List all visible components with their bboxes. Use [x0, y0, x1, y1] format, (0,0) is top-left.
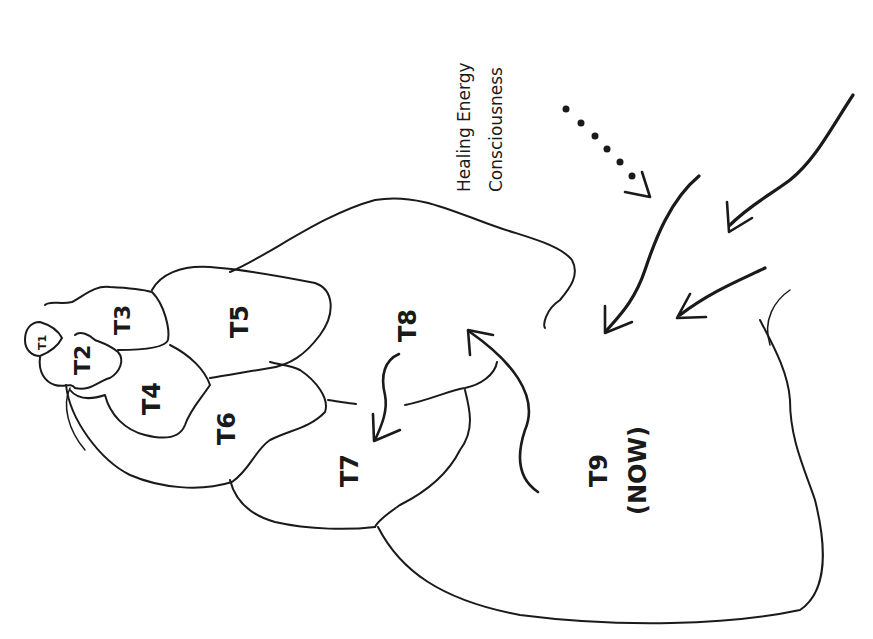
- label-t6: T6: [213, 412, 241, 445]
- region-t9-inner-edge: [768, 290, 790, 345]
- label-t5: T5: [226, 305, 254, 338]
- label-t4: T4: [138, 382, 166, 415]
- incoming-arrow-3: [677, 268, 765, 318]
- label-t2: T2: [70, 345, 95, 375]
- t9-to-t8-arrow: [468, 330, 538, 492]
- label-t3: T3: [110, 305, 135, 335]
- t8-to-t7-arrow: [373, 354, 400, 441]
- label-t9-now: (NOW): [624, 426, 652, 515]
- label-t7: T7: [336, 454, 364, 487]
- dotted-incoming-arrow: [563, 106, 651, 198]
- region-t7-top-edge: [328, 400, 356, 404]
- caption-line-1: Healing Energy: [454, 62, 474, 192]
- label-t1: T1: [36, 335, 49, 350]
- region-t8-t9-divider: [375, 390, 470, 527]
- time-regions-diagram: Healing Energy Consciousness T1 T2 T3 T4…: [0, 0, 873, 639]
- incoming-arrow-2: [727, 95, 853, 232]
- caption-line-2: Consciousness: [486, 67, 506, 192]
- region-t8-outline: [230, 198, 575, 328]
- label-t8: T8: [394, 309, 422, 342]
- label-t9: T9: [585, 454, 613, 487]
- region-t8-bottom-edge: [405, 362, 497, 405]
- region-t3-outline: [45, 287, 168, 350]
